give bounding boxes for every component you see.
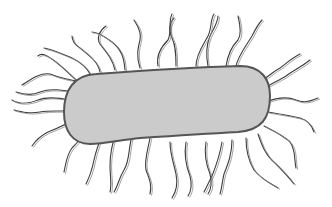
bacterium-illustration: [0, 0, 332, 207]
cell-body: [64, 66, 270, 144]
figure-caption: [4, 199, 328, 207]
